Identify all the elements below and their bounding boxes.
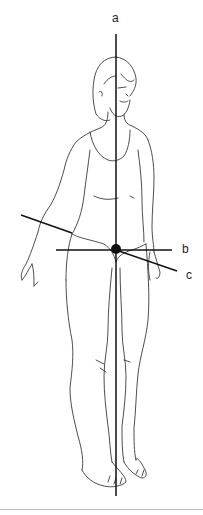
- bottom-divider: [0, 509, 203, 510]
- hip-joint-center: [111, 244, 121, 254]
- woman-sketch: [21, 57, 160, 487]
- axis-c-label: c: [186, 268, 192, 282]
- anatomical-figure: [0, 0, 203, 509]
- axis-a-label: a: [112, 11, 119, 25]
- axis-c-line: [21, 215, 72, 233]
- axis-b-label: b: [182, 242, 189, 256]
